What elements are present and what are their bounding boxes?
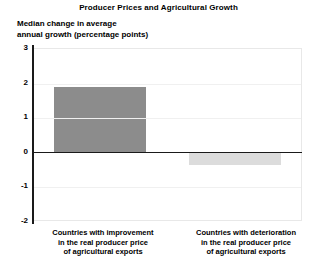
- y-axis-spine: [32, 45, 34, 224]
- gridline--1: [33, 187, 301, 188]
- y-axis-label: Median change in average annual growth (…: [17, 19, 148, 40]
- y-tick-label-3: 3: [2, 44, 28, 52]
- y-tick-label-2: 2: [2, 79, 28, 87]
- gridline-2: [33, 84, 301, 85]
- bar-countries-with-deterioration: [189, 153, 281, 165]
- y-tick-label-1: 1: [2, 113, 28, 121]
- y-tick-label-m1: -1: [2, 182, 28, 190]
- chart-title: Producer Prices and Agricultural Growth: [0, 3, 317, 13]
- chart-figure: Producer Prices and Agricultural Growth …: [0, 0, 317, 275]
- y-tick-label-0: 0: [2, 148, 28, 156]
- x-category-label-deterioration: Countries with deterioration in the real…: [175, 228, 317, 257]
- x-category-label-improvement: Countries with improvement in the real p…: [28, 228, 178, 257]
- plot-area: [33, 48, 302, 221]
- y-tick-label-m2: -2: [2, 217, 28, 225]
- zero-baseline: [33, 152, 302, 154]
- gridline-1: [33, 118, 301, 119]
- bar-countries-with-improvement: [54, 87, 146, 153]
